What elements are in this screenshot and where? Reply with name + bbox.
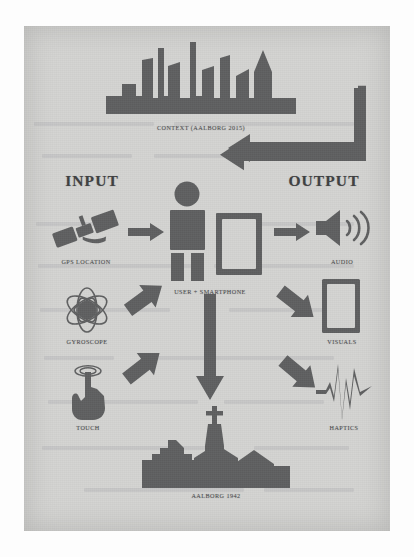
- touch-to-user-connector: [122, 346, 164, 386]
- scanned-figure-plate: CONTEXT (AALBORG 2015) INPUT OUTPUT: [24, 26, 390, 531]
- person-icon: [170, 182, 205, 282]
- touch-hand-icon: [64, 363, 114, 421]
- output-audio-label: AUDIO: [331, 258, 353, 265]
- user-to-audio-connector: [274, 223, 310, 241]
- user-to-place-connector: [194, 294, 226, 402]
- output-visuals-label: VISUALS: [327, 338, 356, 345]
- vibration-waveform-icon: [316, 362, 372, 420]
- place-label: AALBORG 1942: [191, 492, 240, 499]
- smartphone-icon: [216, 213, 262, 275]
- diagram-page: CONTEXT (AALBORG 2015) INPUT OUTPUT: [0, 0, 414, 557]
- ghost-text: [264, 488, 354, 492]
- gyroscope-icon: [56, 284, 118, 336]
- output-haptics-node[interactable]: [316, 362, 372, 420]
- output-visuals-node[interactable]: [321, 278, 361, 334]
- output-to-context-connector: [220, 86, 372, 172]
- output-audio-node[interactable]: [314, 208, 370, 248]
- church-skyline-icon: [142, 406, 290, 488]
- screen-icon: [321, 278, 361, 334]
- ghost-text: [42, 154, 132, 158]
- user-to-visuals-connector: [276, 284, 318, 324]
- output-haptics-label: HAPTICS: [330, 424, 359, 431]
- input-touch-node[interactable]: [64, 363, 114, 421]
- ghost-text: [44, 356, 114, 360]
- input-gps-label: GPS LOCATION: [61, 258, 110, 265]
- input-title: INPUT: [65, 172, 119, 190]
- output-title: OUTPUT: [288, 172, 359, 190]
- place-node[interactable]: [142, 406, 290, 488]
- input-touch-label: TOUCH: [76, 424, 99, 431]
- input-gps-node[interactable]: [51, 208, 121, 254]
- input-gyroscope-node[interactable]: [56, 284, 118, 336]
- gps-to-user-connector: [128, 223, 164, 241]
- satellite-icon: [51, 208, 121, 254]
- input-gyroscope-label: GYROSCOPE: [67, 338, 108, 345]
- speaker-icon: [314, 208, 370, 248]
- gyroscope-to-user-connector: [124, 278, 166, 318]
- user-to-haptics-connector: [278, 354, 320, 394]
- user-smartphone-node[interactable]: [158, 181, 264, 281]
- ghost-text: [224, 400, 324, 404]
